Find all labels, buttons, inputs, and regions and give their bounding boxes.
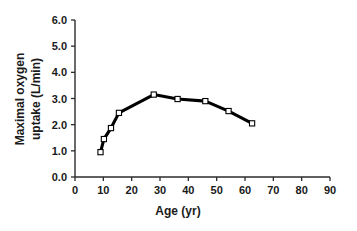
y-tick-label: 0.0 xyxy=(52,171,67,183)
data-point-marker xyxy=(203,99,208,104)
data-point-marker xyxy=(98,150,103,155)
y-tick-label: 1.0 xyxy=(52,145,67,157)
data-point-marker xyxy=(101,136,106,141)
y-tick-label: 4.0 xyxy=(52,66,67,78)
data-point-marker xyxy=(151,92,156,97)
y-tick-label: 3.0 xyxy=(52,93,67,105)
y-tick-label: 2.0 xyxy=(52,119,67,131)
x-tick-label: 70 xyxy=(267,184,279,196)
series-markers xyxy=(98,92,255,155)
y-tick-label: 6.0 xyxy=(52,14,67,26)
x-tick-label: 60 xyxy=(239,184,251,196)
x-tick-label: 0 xyxy=(72,184,78,196)
x-axis-tick-labels: 0102030405060708090 xyxy=(72,184,336,196)
y-axis-tick-labels: 0.01.02.03.04.05.06.0 xyxy=(52,14,67,183)
x-tick-label: 40 xyxy=(182,184,194,196)
data-point-marker xyxy=(116,110,121,115)
y-axis-title-line1: Maximal oxygen xyxy=(13,53,27,146)
data-point-marker xyxy=(249,121,254,126)
data-point-marker xyxy=(108,125,113,130)
x-tick-label: 20 xyxy=(126,184,138,196)
y-tick-label: 5.0 xyxy=(52,40,67,52)
line-chart: 0.01.02.03.04.05.06.0 010203040506070809… xyxy=(0,0,357,231)
chart-figure: 0.01.02.03.04.05.06.0 010203040506070809… xyxy=(0,0,357,231)
x-tick-label: 50 xyxy=(211,184,223,196)
x-tick-label: 90 xyxy=(324,184,336,196)
data-point-marker xyxy=(226,108,231,113)
x-axis-title: Age (yr) xyxy=(155,204,200,218)
y-axis-title-line2: uptake (L/min) xyxy=(29,58,43,140)
series-line xyxy=(101,95,253,153)
x-tick-label: 80 xyxy=(296,184,308,196)
x-tick-label: 30 xyxy=(154,184,166,196)
x-tick-label: 10 xyxy=(97,184,109,196)
data-point-marker xyxy=(175,96,180,101)
